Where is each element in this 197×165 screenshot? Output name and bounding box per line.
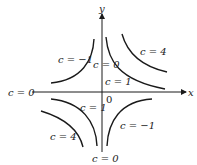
label-y-axis-top-c0: c = 0: [93, 59, 120, 70]
label-x-axis-c0: c = 0: [8, 87, 35, 98]
label-q3-c1: c = 1: [80, 102, 107, 113]
label-q3-c4: c = 4: [50, 131, 77, 142]
level-curves-diagram: y x 0 c = 4 c = 1 c = −1 c = 0 c = 0 c =…: [0, 0, 197, 165]
label-q4-cneg1: c = −1: [120, 120, 155, 131]
label-q1-c4: c = 4: [140, 46, 167, 57]
label-q2-cneg1: c = −1: [58, 54, 93, 65]
origin-label: 0: [106, 94, 112, 105]
label-q1-c1: c = 1: [105, 76, 132, 87]
x-axis-label: x: [188, 87, 194, 98]
y-axis-label: y: [98, 3, 105, 14]
label-y-axis-bottom-c0: c = 0: [92, 153, 119, 164]
